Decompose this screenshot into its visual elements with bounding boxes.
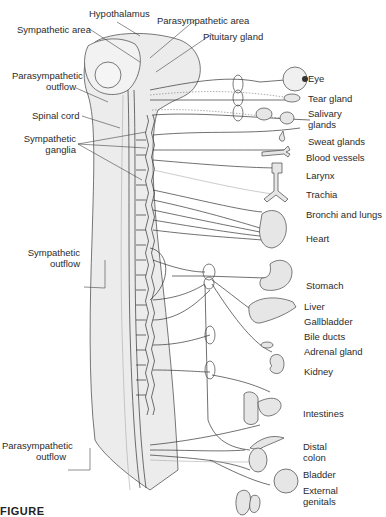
label-line-1: Salivary	[308, 108, 342, 119]
label-distal-colon: Distal colon	[303, 441, 327, 463]
label-kidney: Kidney	[304, 366, 333, 377]
label-bile-ducts: Bile ducts	[304, 331, 345, 342]
label-sympathetic-area: Sympathetic area	[17, 24, 91, 35]
label-heart: Heart	[306, 233, 329, 244]
label-parasympathetic-outflow-top: Parasympathetic outflow	[12, 70, 76, 92]
label-line-2: outflow	[2, 451, 66, 462]
label-line-2: glands	[308, 119, 342, 130]
label-tear-gland: Tear gland	[308, 93, 352, 104]
label-trachia: Trachia	[306, 189, 337, 200]
label-line-2: genitals	[303, 496, 338, 507]
figure-caption: FIGURE	[0, 505, 45, 517]
label-line-2: ganglia	[14, 144, 76, 155]
label-line-2: colon	[303, 452, 327, 463]
label-line-1: External	[303, 485, 338, 496]
label-sympathetic-ganglia: Sympathetic ganglia	[14, 133, 76, 155]
label-adrenal-gland: Adrenal gland	[304, 346, 363, 357]
label-parasympathetic-outflow-bottom: Parasympathetic outflow	[2, 440, 66, 462]
label-larynx: Larynx	[306, 170, 335, 181]
label-line-1: Sympathetic	[18, 247, 80, 258]
label-line-2: outflow	[12, 81, 76, 92]
label-bladder: Bladder	[303, 469, 336, 480]
label-sweat-glands: Sweat glands	[308, 136, 365, 147]
label-salivary-glands: Salivary glands	[308, 108, 342, 130]
label-line-1: Sympathetic	[14, 133, 76, 144]
label-liver: Liver	[304, 301, 325, 312]
label-bronchi-lungs: Bronchi and lungs	[306, 209, 382, 220]
label-hypothalamus: Hypothalamus	[89, 8, 150, 19]
label-intestines: Intestines	[303, 408, 344, 419]
label-gallbladder: Gallbladder	[304, 316, 353, 327]
label-pituitary-gland: Pituitary gland	[203, 31, 263, 42]
label-stomach: Stomach	[306, 280, 344, 291]
body-silhouette	[84, 33, 200, 490]
label-line-1: Parasympathetic	[12, 70, 76, 81]
label-eye: Eye	[308, 73, 324, 84]
label-line-1: Distal	[303, 441, 327, 452]
label-spinal-cord: Spinal cord	[32, 110, 80, 121]
label-parasympathetic-area: Parasympathetic area	[157, 15, 249, 26]
label-blood-vessels: Blood vessels	[306, 152, 365, 163]
label-line-1: Parasympathetic	[2, 440, 66, 451]
organs	[236, 67, 308, 515]
label-line-2: outflow	[18, 258, 80, 269]
label-sympathetic-outflow: Sympathetic outflow	[18, 247, 80, 269]
label-external-genitals: External genitals	[303, 485, 338, 507]
